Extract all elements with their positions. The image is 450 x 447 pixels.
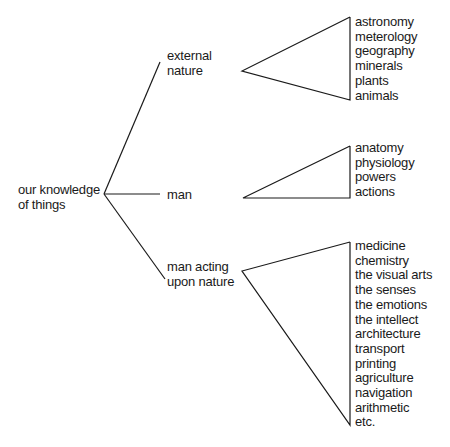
- list-man: anatomy physiology powers actions: [355, 141, 414, 200]
- root-label-line2: of things: [18, 197, 100, 212]
- list-item: transport: [355, 342, 432, 357]
- list-item: minerals: [355, 59, 417, 74]
- list-item: arithmetic: [355, 401, 432, 416]
- branch-label-man: man: [167, 187, 192, 202]
- root-label-line1: our knowledge: [18, 182, 100, 197]
- branch-line-man-acting: [104, 194, 165, 279]
- list-item: animals: [355, 89, 417, 104]
- list-item: agriculture: [355, 371, 432, 386]
- list-item: the intellect: [355, 313, 432, 328]
- list-item: printing: [355, 357, 432, 372]
- bracket-man: [243, 146, 350, 198]
- branch-label-external-nature: external nature: [167, 48, 212, 78]
- list-item: the senses: [355, 283, 432, 298]
- list-item: anatomy: [355, 141, 414, 156]
- list-item: astronomy: [355, 15, 417, 30]
- branch-label-line1: man acting: [167, 259, 234, 274]
- list-item: actions: [355, 185, 414, 200]
- branch-label-man-acting: man acting upon nature: [167, 259, 234, 289]
- bracket-external-nature: [242, 17, 350, 100]
- bracket-man-acting: [242, 242, 350, 425]
- branch-label-line1: external: [167, 48, 212, 63]
- list-item: medicine: [355, 239, 432, 254]
- list-item: navigation: [355, 386, 432, 401]
- branch-label-line2: nature: [167, 63, 212, 78]
- list-item: chemistry: [355, 254, 432, 269]
- list-item: plants: [355, 74, 417, 89]
- list-item: meterology: [355, 30, 417, 45]
- list-man-acting: medicine chemistry the visual arts the s…: [355, 239, 432, 430]
- list-item: architecture: [355, 327, 432, 342]
- root-label: our knowledge of things: [18, 182, 100, 212]
- list-external-nature: astronomy meterology geography minerals …: [355, 15, 417, 103]
- list-item: the visual arts: [355, 268, 432, 283]
- branch-label-line2: upon nature: [167, 274, 234, 289]
- list-item: physiology: [355, 156, 414, 171]
- list-item: powers: [355, 170, 414, 185]
- list-item: the emotions: [355, 298, 432, 313]
- branch-line-external-nature: [104, 62, 160, 194]
- list-item-etc: etc.: [355, 415, 432, 430]
- branch-label-line1: man: [167, 187, 192, 202]
- list-item: geography: [355, 44, 417, 59]
